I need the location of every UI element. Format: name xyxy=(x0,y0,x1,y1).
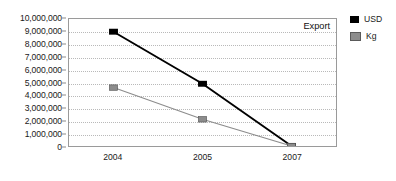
x-axis-tick-label: 2007 xyxy=(283,152,302,162)
y-axis-tick-mark xyxy=(62,134,66,135)
series-layer xyxy=(69,19,336,146)
export-annotation: Export xyxy=(303,21,330,32)
y-axis-tick-mark xyxy=(62,108,66,109)
y-axis-tick-label: 8,000,000 xyxy=(0,40,62,48)
chart-legend: USDKg xyxy=(350,14,396,48)
series-line-usd xyxy=(114,32,292,146)
legend-swatch-icon xyxy=(350,16,359,23)
legend-swatch-icon xyxy=(350,32,361,41)
legend-entry-kg[interactable]: Kg xyxy=(350,31,396,41)
y-axis: 10,000,0009,000,0008,000,0007,000,0006,0… xyxy=(0,11,62,151)
y-axis-tick-label: 4,000,000 xyxy=(0,91,62,99)
y-axis-tick-mark xyxy=(62,95,66,96)
y-axis-tick-mark xyxy=(62,18,66,19)
y-axis-tick-mark xyxy=(62,56,66,57)
data-point-marker xyxy=(288,143,296,146)
y-axis-tick-label: 2,000,000 xyxy=(0,117,62,125)
y-axis-tick-label: 0 xyxy=(0,143,62,151)
y-axis-tick-label: 1,000,000 xyxy=(0,130,62,138)
data-point-marker xyxy=(198,81,207,87)
legend-label: USD xyxy=(364,15,382,24)
y-axis-tick-mark xyxy=(62,30,66,31)
x-axis: 200420052007 xyxy=(68,152,337,168)
export-line-chart: 10,000,0009,000,0008,000,0007,000,0006,0… xyxy=(0,0,396,181)
x-axis-tick-label: 2005 xyxy=(193,152,212,162)
legend-entry-usd[interactable]: USD xyxy=(350,14,396,24)
y-axis-tick-label: 10,000,000 xyxy=(0,14,62,22)
x-axis-tick-label: 2004 xyxy=(103,152,122,162)
legend-label: Kg xyxy=(366,32,377,41)
y-axis-tick-label: 9,000,000 xyxy=(0,27,62,35)
data-point-marker xyxy=(110,85,118,90)
y-axis-tick-mark xyxy=(62,69,66,70)
y-axis-tick-label: 3,000,000 xyxy=(0,104,62,112)
data-point-marker xyxy=(199,117,207,122)
data-point-marker xyxy=(109,29,118,35)
y-axis-tick-mark xyxy=(62,121,66,122)
y-axis-tick-label: 6,000,000 xyxy=(0,66,62,74)
y-axis-tick-mark xyxy=(62,147,66,148)
y-axis-tick-mark xyxy=(62,43,66,44)
y-axis-tick-label: 7,000,000 xyxy=(0,53,62,61)
y-axis-tick-label: 5,000,000 xyxy=(0,79,62,87)
y-axis-tick-mark xyxy=(62,82,66,83)
plot-area: Export xyxy=(68,18,337,147)
